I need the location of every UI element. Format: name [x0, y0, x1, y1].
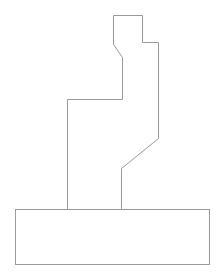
- diagram-canvas: [0, 0, 218, 278]
- background: [0, 0, 218, 278]
